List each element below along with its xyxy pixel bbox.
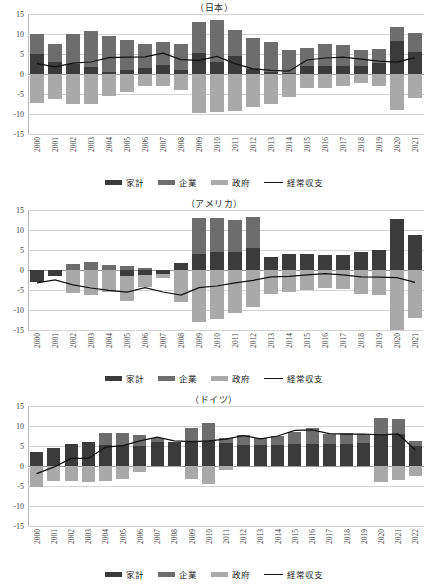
- x-tick: 2000: [28, 136, 46, 176]
- legend-swatch-government: [211, 180, 228, 185]
- x-tick: 2006: [136, 332, 154, 372]
- y-axis-america: 151050-5-10-15: [0, 210, 28, 330]
- legend-item-household[interactable]: 家計: [105, 176, 144, 188]
- x-tick-label: 2000: [33, 137, 42, 152]
- legend-label: 経常収支: [287, 176, 323, 188]
- x-tick-label: 2005: [118, 529, 127, 544]
- legend-item-corporate[interactable]: 企業: [158, 568, 197, 580]
- legend-item-balance[interactable]: 経常収支: [264, 568, 323, 580]
- x-tick-label: 2008: [170, 529, 179, 544]
- y-tick-label: 0: [20, 70, 24, 79]
- x-tick-label: 2006: [141, 333, 150, 348]
- legend-swatch-corporate: [158, 180, 175, 185]
- x-tick: 2006: [131, 528, 148, 568]
- y-tick-label: -5: [17, 286, 24, 295]
- legend-label: 政府: [232, 176, 250, 188]
- x-tick: 2008: [166, 528, 183, 568]
- x-tick: 2012: [244, 332, 262, 372]
- x-axis-japan: 2000200120022003200420052006200720082009…: [28, 136, 424, 176]
- y-tick-label: -15: [13, 130, 24, 139]
- x-tick-label: 2009: [195, 137, 204, 152]
- x-tick: 2019: [370, 136, 388, 176]
- x-tick: 2002: [64, 332, 82, 372]
- x-tick: 2004: [100, 332, 118, 372]
- y-tick-label: 0: [20, 462, 24, 471]
- legend-item-government[interactable]: 政府: [211, 568, 250, 580]
- legend-item-government[interactable]: 政府: [211, 372, 250, 384]
- legend-item-corporate[interactable]: 企業: [158, 372, 197, 384]
- x-tick: 2010: [208, 332, 226, 372]
- x-tick-label: 2001: [51, 137, 60, 152]
- y-tick-label: 10: [16, 30, 24, 39]
- legend-label: 企業: [179, 372, 197, 384]
- line-path: [37, 430, 416, 474]
- x-tick: 2021: [406, 332, 424, 372]
- x-tick-label: 2010: [213, 333, 222, 348]
- legend-item-corporate[interactable]: 企業: [158, 176, 197, 188]
- y-tick-label: -5: [17, 90, 24, 99]
- x-tick-label: 2003: [84, 529, 93, 544]
- x-tick: 2011: [217, 528, 234, 568]
- legend-item-household[interactable]: 家計: [105, 568, 144, 580]
- x-tick-label: 2008: [177, 137, 186, 152]
- x-tick-label: 2011: [231, 333, 240, 348]
- grid-line: [28, 134, 424, 135]
- x-axis-germany: 2000200120022003200420052006200720082009…: [28, 528, 424, 568]
- legend-germany: 家計企業政府経常収支: [0, 568, 428, 580]
- x-tick: 2004: [100, 136, 118, 176]
- x-tick-label: 2007: [159, 137, 168, 152]
- x-tick-label: 2012: [249, 137, 258, 152]
- x-tick-label: 2018: [342, 529, 351, 544]
- x-tick: 2013: [262, 136, 280, 176]
- y-tick-label: 10: [16, 422, 24, 431]
- legend-label: 企業: [179, 176, 197, 188]
- x-tick: 2014: [269, 528, 286, 568]
- legend-label: 家計: [126, 176, 144, 188]
- x-tick: 2011: [226, 332, 244, 372]
- x-tick-label: 2015: [303, 137, 312, 152]
- x-tick-label: 2005: [123, 137, 132, 152]
- x-tick-label: 2020: [393, 333, 402, 348]
- current-account-line-japan: [28, 14, 424, 134]
- x-tick: 2019: [370, 332, 388, 372]
- chart-title-germany: （ドイツ）: [0, 393, 428, 406]
- y-tick-label: -10: [13, 306, 24, 315]
- x-tick: 2018: [352, 136, 370, 176]
- x-tick-label: 2010: [213, 137, 222, 152]
- x-tick: 2016: [316, 332, 334, 372]
- legend-label: 家計: [126, 568, 144, 580]
- legend-item-balance[interactable]: 経常収支: [264, 372, 323, 384]
- x-tick-label: 2021: [394, 529, 403, 544]
- x-tick-label: 2002: [69, 333, 78, 348]
- x-tick: 2004: [97, 528, 114, 568]
- x-tick-label: 2019: [375, 137, 384, 152]
- x-tick-label: 2002: [69, 137, 78, 152]
- x-axis-america: 2000200120022003200420052006200720082009…: [28, 332, 424, 372]
- x-tick-label: 2016: [308, 529, 317, 544]
- legend-swatch-household: [105, 376, 122, 381]
- x-tick-label: 2009: [195, 333, 204, 348]
- x-tick: 2013: [262, 332, 280, 372]
- x-tick: 2009: [183, 528, 200, 568]
- x-tick: 2009: [190, 332, 208, 372]
- legend-item-government[interactable]: 政府: [211, 176, 250, 188]
- line-path: [37, 274, 415, 296]
- y-axis-germany: 151050-5-10-15: [0, 406, 28, 526]
- x-tick-label: 2015: [290, 529, 299, 544]
- plot-area-japan: 151050-5-10-15: [0, 14, 428, 134]
- x-tick-label: 2003: [87, 333, 96, 348]
- legend-swatch-household: [105, 180, 122, 185]
- x-tick-label: 2018: [357, 137, 366, 152]
- x-tick-label: 2002: [67, 529, 76, 544]
- legend-item-balance[interactable]: 経常収支: [264, 176, 323, 188]
- x-tick-label: 2020: [393, 137, 402, 152]
- legend-item-household[interactable]: 家計: [105, 372, 144, 384]
- y-tick-label: 15: [16, 206, 24, 215]
- x-tick: 2017: [334, 136, 352, 176]
- chart-title-america: （アメリカ）: [0, 197, 428, 210]
- chart-block-japan: （日本）151050-5-10-152000200120022003200420…: [0, 0, 428, 196]
- x-tick: 2003: [82, 332, 100, 372]
- x-tick: 2021: [390, 528, 407, 568]
- x-tick-label: 2021: [411, 333, 420, 348]
- x-tick: 2020: [388, 332, 406, 372]
